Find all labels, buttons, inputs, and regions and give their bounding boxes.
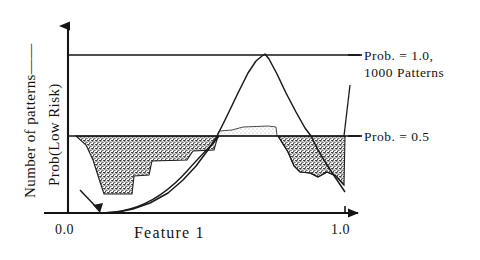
shaded-region-above-half-middle [217, 126, 277, 136]
figure-container: Number of patterns—— Prob(Low Risk) 0.0 … [0, 0, 480, 260]
y-axis-label-prob: Prob(Low Risk) [46, 83, 63, 186]
annotation-prob-one-line1: Prob. = 1.0, [364, 47, 444, 64]
y-axis-label-patterns: Number of patterns—— [22, 43, 39, 198]
right-edge-riser-line [344, 85, 350, 136]
x-axis-title: Feature 1 [134, 224, 205, 242]
annotation-prob-one: Prob. = 1.0, 1000 Patterns [364, 47, 444, 81]
annotation-prob-one-line2: 1000 Patterns [364, 64, 444, 81]
x-tick-label-1: 1.0 [331, 222, 350, 238]
x-tick-label-0: 0.0 [55, 222, 74, 238]
annotation-prob-half: Prob. = 0.5 [364, 129, 430, 145]
